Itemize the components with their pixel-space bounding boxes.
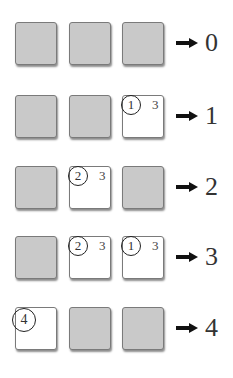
cell-gray — [69, 307, 111, 350]
diagram-row-2: 2 3 2 — [0, 166, 233, 212]
cell-gray — [15, 22, 57, 65]
diagram-row-4: 4 4 — [0, 307, 233, 353]
right-arrow-icon — [176, 182, 198, 192]
right-arrow-icon — [176, 111, 198, 121]
circled-number: 1 — [121, 236, 141, 256]
diagram-row-0: 0 — [0, 22, 233, 68]
side-number: 3 — [152, 238, 159, 254]
cell-gray — [69, 22, 111, 65]
result-value: 3 — [205, 243, 218, 271]
diagram-row-1: 1 3 1 — [0, 95, 233, 141]
result-value: 0 — [205, 29, 218, 57]
right-arrow-icon — [176, 323, 198, 333]
cell-white: 1 3 — [122, 236, 164, 279]
cell-white: 4 — [15, 307, 57, 350]
side-number: 3 — [152, 97, 159, 113]
cell-gray — [15, 166, 57, 209]
cell-gray — [122, 22, 164, 65]
cell-gray — [15, 95, 57, 138]
right-arrow-icon — [176, 38, 198, 48]
diagram-row-3: 2 3 1 3 3 — [0, 236, 233, 282]
side-number: 3 — [99, 238, 106, 254]
result-value: 4 — [205, 314, 218, 342]
cell-white: 2 3 — [69, 166, 111, 209]
side-number: 3 — [99, 168, 106, 184]
right-arrow-icon — [176, 252, 198, 262]
cell-white: 2 3 — [69, 236, 111, 279]
cell-white: 1 3 — [122, 95, 164, 138]
cell-gray — [15, 236, 57, 279]
circled-number: 4 — [12, 308, 36, 332]
circled-number: 2 — [68, 166, 88, 186]
result-value: 1 — [205, 102, 218, 130]
cell-gray — [122, 307, 164, 350]
cell-gray — [69, 95, 111, 138]
circled-number: 2 — [68, 236, 88, 256]
cell-gray — [122, 166, 164, 209]
result-value: 2 — [205, 173, 218, 201]
circled-number: 1 — [121, 95, 141, 115]
